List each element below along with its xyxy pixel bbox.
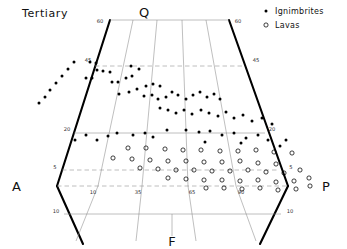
- data-point: [143, 95, 146, 98]
- data-point: [202, 160, 206, 164]
- data-point: [246, 168, 250, 172]
- data-point: [290, 151, 294, 155]
- partition-65: [182, 20, 188, 186]
- data-point: [261, 117, 264, 120]
- data-point: [89, 61, 92, 64]
- data-point: [85, 77, 88, 80]
- data-point: [111, 81, 114, 84]
- figure-title: Tertiary: [21, 7, 68, 20]
- data-point: [274, 180, 278, 184]
- data-point: [118, 93, 121, 96]
- data-point: [292, 179, 296, 183]
- data-point: [245, 137, 248, 140]
- data-point: [184, 177, 188, 181]
- horizontal-grid-lines: [57, 20, 288, 214]
- data-point: [199, 91, 202, 94]
- data-point: [116, 132, 119, 135]
- data-point: [163, 147, 167, 151]
- data-point: [242, 114, 245, 117]
- data-point: [256, 178, 260, 182]
- corner-label-p: P: [322, 179, 330, 194]
- data-point: [198, 131, 201, 134]
- diagram-outline: [57, 20, 288, 244]
- tick-inner-90: 90: [238, 189, 245, 195]
- corner-label-q: Q: [139, 5, 149, 20]
- tick-labels: 60 60 45 45 20 20 5 5 10 10 10 35 65 90: [53, 18, 294, 214]
- tick-top-left: 60: [97, 18, 104, 24]
- data-point: [95, 62, 98, 65]
- data-point: [61, 75, 64, 78]
- data-point: [240, 142, 243, 145]
- data-point: [144, 146, 148, 150]
- data-point: [152, 83, 155, 86]
- data-point: [166, 176, 170, 180]
- data-point: [159, 107, 162, 110]
- data-point: [111, 156, 115, 160]
- data-point: [208, 112, 211, 115]
- data-point: [117, 81, 120, 84]
- data-point: [257, 134, 260, 137]
- legend: Ignimbrites Lavas: [264, 7, 324, 30]
- data-point: [91, 77, 94, 80]
- data-point: [128, 91, 131, 94]
- data-point: [131, 75, 134, 78]
- data-point: [109, 71, 112, 74]
- data-point: [166, 159, 170, 163]
- data-point: [185, 98, 188, 101]
- legend-marker-ignimbrites: [265, 10, 268, 13]
- data-point: [151, 94, 154, 97]
- data-point: [256, 161, 260, 165]
- data-point: [38, 102, 41, 105]
- data-point: [267, 139, 270, 142]
- data-point: [213, 93, 216, 96]
- data-point: [130, 65, 133, 68]
- data-point: [258, 186, 262, 190]
- data-point: [136, 88, 139, 91]
- data-point: [202, 178, 206, 182]
- data-point: [145, 85, 148, 88]
- tick-left-5: 5: [53, 164, 56, 170]
- data-point: [152, 136, 155, 139]
- data-point: [192, 94, 195, 97]
- data-point: [220, 160, 224, 164]
- data-point: [85, 134, 88, 137]
- data-point: [96, 69, 99, 72]
- data-point: [308, 184, 312, 188]
- data-point: [209, 130, 212, 133]
- data-point: [177, 94, 180, 97]
- partition-90: [206, 20, 236, 186]
- data-point: [200, 109, 203, 112]
- data-point: [274, 162, 278, 166]
- data-point: [156, 167, 160, 171]
- data-point: [67, 68, 70, 71]
- data-point: [233, 117, 236, 120]
- data-point: [228, 169, 232, 173]
- corner-labels: Q A P F: [12, 5, 330, 249]
- data-point: [285, 139, 288, 142]
- data-point: [210, 169, 214, 173]
- data-point: [55, 82, 58, 85]
- data-point: [264, 170, 268, 174]
- data-point: [165, 96, 168, 99]
- data-point: [74, 139, 77, 142]
- data-point: [130, 157, 134, 161]
- legend-label-lavas: Lavas: [275, 21, 300, 30]
- data-point: [276, 188, 280, 192]
- legend-marker-lavas: [264, 23, 268, 27]
- tick-inner-10: 10: [90, 189, 97, 195]
- data-point: [298, 168, 302, 172]
- data-point: [159, 85, 162, 88]
- data-point: [132, 134, 135, 137]
- data-point: [107, 135, 110, 138]
- tick-left-10: 10: [53, 208, 60, 214]
- radial-partition-lines: [98, 20, 236, 186]
- data-point: [218, 149, 222, 153]
- data-point: [199, 148, 203, 152]
- data-point: [183, 109, 186, 112]
- data-point: [167, 109, 170, 112]
- tick-right-10: 10: [287, 208, 294, 214]
- data-point: [254, 148, 258, 152]
- data-point: [126, 146, 130, 150]
- data-point: [157, 98, 160, 101]
- data-point: [271, 123, 274, 126]
